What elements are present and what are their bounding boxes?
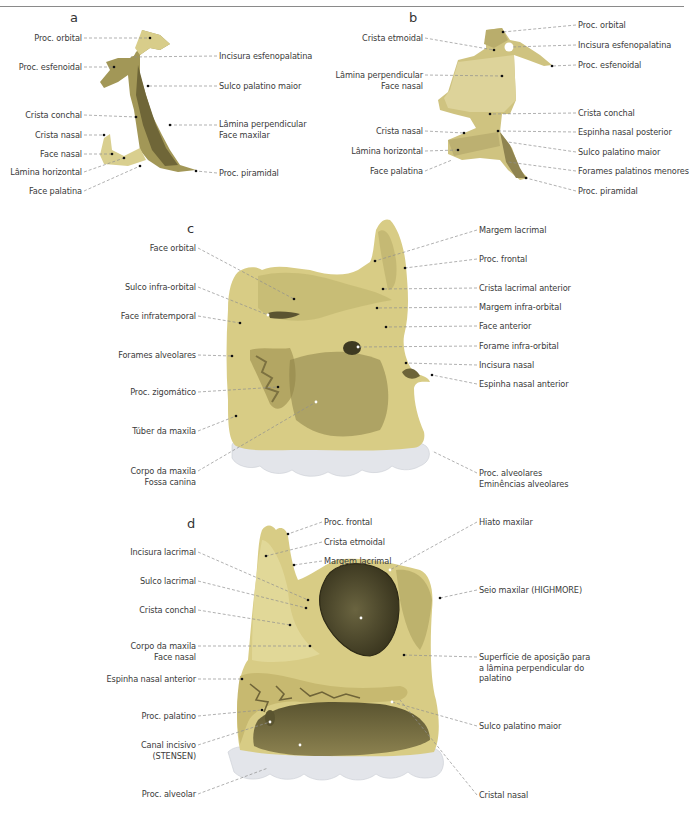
label-d-espinha-nasal-anterior: Espinha nasal anterior	[106, 674, 196, 685]
label-b-proc-esfenoidal: Proc. esfenoidal	[578, 60, 641, 71]
label-b-lamina-horizontal: Lâmina horizontal	[351, 146, 423, 157]
label-d-sulco-lacrimal: Sulco lacrimal	[140, 576, 196, 587]
label-c-face-infratemporal: Face infratemporal	[121, 311, 196, 322]
label-c-incisura-nasal: Incisura nasal	[479, 360, 534, 371]
label-b-incisura-esfenopalatina: Incisura esfenopalatina	[578, 40, 671, 51]
label-a-sulco-palatino-maior: Sulco palatino maior	[219, 81, 301, 92]
label-d-margem-lacrimal: Margem lacrimal	[324, 556, 391, 567]
label-d-hiato-maxilar: Hiato maxilar	[479, 517, 533, 528]
label-a-lamina-perpendicular: Lâmina perpendicular Face maxilar	[219, 119, 306, 140]
label-a-crista-conchal: Crista conchal	[25, 110, 82, 121]
figure-c-maxilla-lateral	[227, 219, 431, 476]
label-c-crista-lacrimal-anterior: Crista lacrimal anterior	[479, 283, 571, 294]
figure-letter-d: d	[187, 516, 195, 531]
label-a-face-nasal: Face nasal	[40, 149, 82, 160]
label-d-superficie-aposicao: Superfície de aposição para a lâmina per…	[479, 652, 590, 684]
label-c-espinha-nasal-anterior: Espinha nasal anterior	[479, 379, 569, 390]
label-d-crista-etmoidal: Crista etmoidal	[324, 537, 385, 548]
label-b-proc-orbital: Proc. orbital	[578, 20, 626, 31]
label-c-proc-frontal: Proc. frontal	[479, 254, 527, 265]
label-c-margem-infra-orbital: Margem infra-orbital	[479, 302, 561, 313]
label-b-crista-etmoidal: Crista etmoidal	[362, 33, 423, 44]
figure-letter-c: c	[187, 221, 194, 236]
label-a-proc-piramidal: Proc. piramidal	[219, 168, 279, 179]
label-d-crista-conchal: Crista conchal	[139, 605, 196, 616]
label-b-espinha-nasal-posterior: Espinha nasal posterior	[578, 127, 672, 138]
label-d-cristal-nasal: Cristal nasal	[479, 790, 528, 801]
label-c-sulco-infra-orbital: Sulco infra-orbital	[125, 282, 196, 293]
figure-letter-b: b	[409, 10, 417, 25]
label-c-proc-zigomatico: Proc. zigomático	[130, 387, 196, 398]
label-c-tuber-da-maxila: Túber da maxila	[132, 426, 196, 437]
label-b-proc-piramidal: Proc. piramidal	[578, 186, 638, 197]
label-d-canal-incisivo: Canal incisivo (STENSEN)	[141, 740, 196, 761]
label-d-sulco-palatino-maior: Sulco palatino maior	[479, 721, 561, 732]
label-b-lamina-perpendicular: Lâmina perpendicular Face nasal	[336, 70, 423, 91]
label-d-seio-maxilar: Seio maxilar (HIGHMORE)	[479, 585, 582, 596]
label-c-margem-lacrimal: Margem lacrimal	[479, 225, 546, 236]
label-a-crista-nasal: Crista nasal	[35, 130, 82, 141]
figure-a-palatine-bone-posterior	[100, 30, 196, 172]
label-c-face-orbital: Face orbital	[150, 243, 196, 254]
label-b-crista-nasal: Crista nasal	[376, 126, 423, 137]
label-d-proc-alveolar: Proc. alveolar	[142, 789, 196, 800]
label-a-proc-orbital: Proc. orbital	[34, 33, 82, 44]
label-b-crista-conchal: Crista conchal	[578, 108, 635, 119]
label-d-proc-frontal: Proc. frontal	[324, 517, 372, 528]
label-a-incisura-esfenopalatina: Incisura esfenopalatina	[219, 51, 312, 62]
label-b-forames-palatinos-menores: Forames palatinos menores	[578, 166, 689, 177]
label-c-forames-alveolares: Forames alveolares	[118, 350, 196, 361]
label-c-proc-alveolares: Proc. alveolares Eminências alveolares	[479, 468, 568, 489]
figure-letter-a: a	[70, 10, 78, 25]
label-d-proc-palatino: Proc. palatino	[142, 711, 197, 722]
label-d-corpo-da-maxila: Corpo da maxila Face nasal	[130, 641, 196, 662]
label-b-sulco-palatino-maior: Sulco palatino maior	[578, 147, 660, 158]
label-d-incisura-lacrimal: Incisura lacrimal	[130, 547, 196, 558]
label-b-face-palatina: Face palatina	[370, 166, 423, 177]
label-c-forame-infra-orbital: Forame infra-orbital	[479, 341, 559, 352]
label-a-face-palatina: Face palatina	[29, 186, 82, 197]
label-a-lamina-horizontal: Lâmina horizontal	[10, 167, 82, 178]
label-a-proc-esfenoidal: Proc. esfenoidal	[19, 62, 82, 73]
label-c-corpo-da-maxila: Corpo da maxila Fossa canina	[130, 466, 196, 487]
label-c-face-anterior: Face anterior	[479, 321, 531, 332]
